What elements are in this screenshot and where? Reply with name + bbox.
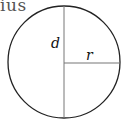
radius-label: r <box>86 47 94 63</box>
circle-diagram: d r <box>0 0 123 119</box>
diameter-label: d <box>51 35 60 51</box>
